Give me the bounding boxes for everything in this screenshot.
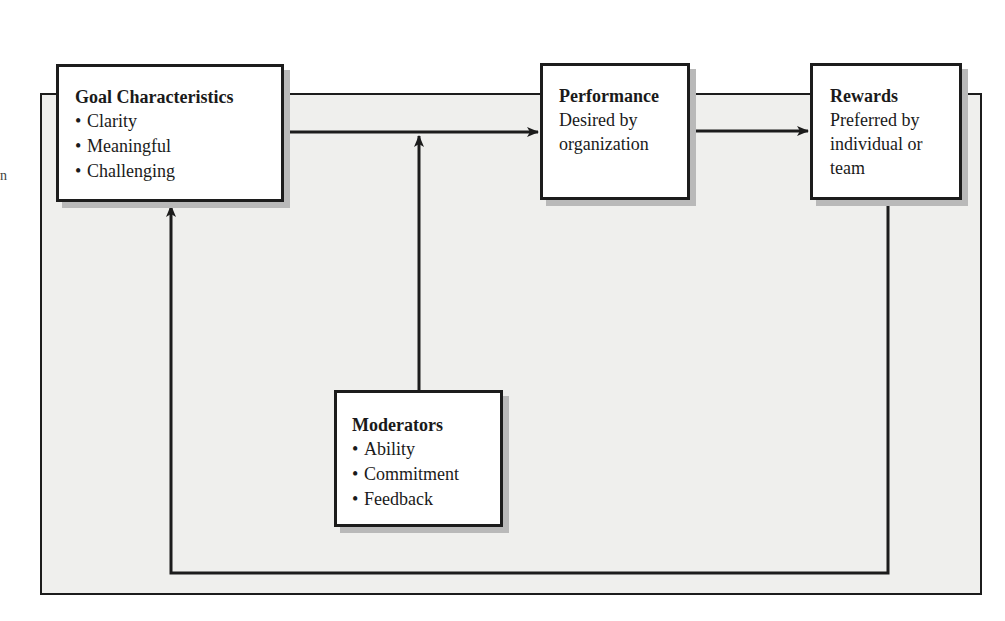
bullet-icon: • [75, 109, 87, 134]
bullet-icon: • [75, 134, 87, 159]
moderators-box: Moderators •Ability •Commitment •Feedbac… [334, 390, 503, 527]
rewards-line: team [830, 156, 959, 180]
moderator-item: •Ability [352, 437, 500, 462]
rewards-line: individual or [830, 132, 959, 156]
rewards-title: Rewards [830, 84, 959, 108]
rewards-line: Preferred by [830, 108, 959, 132]
bullet-icon: • [352, 437, 364, 462]
performance-title: Performance [559, 84, 687, 108]
goal-item: •Challenging [75, 159, 281, 184]
bullet-icon: • [352, 462, 364, 487]
goal-list: •Clarity •Meaningful •Challenging [75, 109, 281, 184]
goal-title: Goal Characteristics [75, 85, 281, 109]
moderator-item: •Commitment [352, 462, 500, 487]
rewards-box: Rewards Preferred by individual or team [810, 63, 962, 200]
moderator-item: •Feedback [352, 487, 500, 512]
performance-line: Desired by [559, 108, 687, 132]
bullet-icon: • [352, 487, 364, 512]
moderators-list: •Ability •Commitment •Feedback [352, 437, 500, 512]
bullet-icon: • [75, 159, 87, 184]
goal-item: •Clarity [75, 109, 281, 134]
moderators-title: Moderators [352, 413, 500, 437]
feedback-loop-line [171, 198, 888, 573]
performance-box: Performance Desired by organization [540, 63, 690, 200]
goal-characteristics-box: Goal Characteristics •Clarity •Meaningfu… [56, 64, 284, 202]
performance-line: organization [559, 132, 687, 156]
goal-item: •Meaningful [75, 134, 281, 159]
